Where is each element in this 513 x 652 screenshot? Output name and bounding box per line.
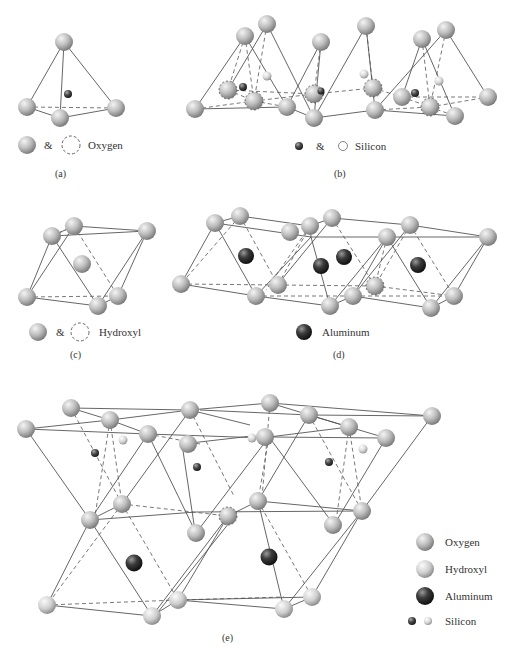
hydroxyl-atom — [172, 275, 190, 293]
oxygen-atom — [479, 88, 497, 106]
hydroxyl-atom — [38, 596, 56, 614]
legend-ampersand: & — [56, 326, 65, 338]
panel-caption-a: (a) — [55, 168, 66, 180]
hydroxyl-atom — [323, 209, 341, 227]
oxygen-atom — [187, 524, 205, 542]
aluminum-position-hydroxyl — [73, 255, 91, 273]
hydroxyl-atom — [401, 216, 419, 234]
aluminum-legend-icon — [416, 587, 434, 605]
hydroxyl-atom — [247, 287, 265, 305]
silicon-atom-light — [263, 72, 272, 81]
hydroxyl-atom — [206, 214, 224, 232]
dashed-oxygen-legend-icon — [62, 136, 80, 154]
hydroxyl-legend-icon — [416, 560, 434, 578]
hydroxyl-atom — [65, 217, 83, 235]
oxygen-atom-hidden — [364, 79, 382, 97]
oxygen-atom — [17, 420, 35, 438]
hydroxyl-atom — [479, 228, 497, 246]
aluminum-atom — [238, 248, 254, 264]
hydroxyl-atom — [344, 287, 362, 305]
legend-label-hydroxyl: Hydroxyl — [445, 563, 487, 575]
oxygen-atom-hidden — [219, 81, 237, 99]
oxygen-atom — [393, 88, 411, 106]
aluminum-atom — [126, 555, 143, 572]
hydroxyl-atom — [109, 287, 127, 305]
hydroxyl-atom — [231, 207, 249, 225]
dashed-hydroxyl-legend-icon — [71, 323, 89, 341]
hydroxyl-atom — [378, 228, 396, 246]
oxygen-atom — [258, 15, 276, 33]
oxygen-atom — [186, 100, 204, 118]
oxygen-atom — [81, 511, 99, 529]
oxygen-atom — [261, 394, 279, 412]
oxygen-atom — [55, 33, 73, 51]
oxygen-atom — [101, 411, 119, 429]
oxygen-atom — [300, 406, 318, 424]
silicon-light-legend-icon — [339, 142, 348, 151]
oxygen-atom — [413, 30, 431, 48]
hydroxyl-atom — [138, 222, 156, 240]
panel-a-silica-tetrahedron: & Oxygen (a) — [18, 33, 125, 180]
legend-label-aluminum: Aluminum — [322, 326, 370, 338]
silicon-atom-light — [248, 434, 257, 443]
hydroxyl-atom — [445, 287, 463, 305]
hydroxyl-atom — [321, 297, 339, 315]
hydroxyl-atom — [18, 288, 36, 306]
clay-mineral-structure-diagram: & Oxygen (a) — [0, 0, 513, 652]
panel-caption-d: (d) — [333, 349, 345, 361]
panel-e-kaolinite-structure: (e) Oxygen Hydroxyl Aluminum Silicon — [17, 394, 493, 644]
hydroxyl-atom — [269, 276, 287, 294]
oxygen-atom — [353, 502, 371, 520]
oxygen-atom — [312, 33, 330, 51]
aluminum-atom — [336, 249, 352, 265]
oxygen-atom-hidden — [421, 98, 439, 116]
legend-e: Oxygen Hydroxyl Aluminum Silicon — [408, 533, 493, 627]
oxygen-atom-hidden — [245, 92, 263, 110]
oxygen-atom — [366, 101, 384, 119]
hydroxyl-atom — [275, 600, 293, 618]
oxygen-atom-hidden — [219, 507, 237, 525]
silicon-atom-light — [435, 77, 444, 86]
oxygen-atom — [305, 109, 323, 127]
oxygen-atom — [18, 98, 36, 116]
hydroxyl-atom — [301, 217, 319, 235]
legend-label-silicon: Silicon — [445, 615, 477, 627]
legend-label-aluminum: Aluminum — [445, 590, 493, 602]
silicon-light-legend-icon — [424, 617, 432, 625]
legend-ampersand: & — [316, 140, 325, 152]
oxygen-atom — [179, 435, 197, 453]
oxygen-atom — [357, 17, 375, 35]
oxygen-atom — [324, 516, 342, 534]
aluminum-atom — [261, 549, 278, 566]
legend-label-oxygen: Oxygen — [445, 536, 480, 548]
silicon-atom — [64, 90, 72, 98]
silicon-atom — [318, 88, 325, 95]
silicon-dark-legend-icon — [408, 617, 416, 625]
oxygen-atom — [236, 27, 254, 45]
oxygen-atom — [278, 98, 296, 116]
hydroxyl-atom — [422, 299, 440, 317]
legend-label-oxygen: Oxygen — [88, 139, 123, 151]
silicon-atom — [193, 463, 201, 471]
oxygen-atom — [249, 492, 267, 510]
hydroxyl-atom-hidden — [366, 277, 384, 295]
oxygen-atom — [423, 407, 441, 425]
panel-caption-e: (e) — [222, 632, 233, 644]
silicon-atom — [411, 89, 419, 97]
hydroxyl-legend-icon — [29, 323, 47, 341]
hydroxyl-atom — [89, 297, 107, 315]
hydroxyl-atom — [281, 223, 299, 241]
silicon-atom-light — [360, 70, 369, 79]
oxygen-atom — [113, 495, 131, 513]
panel-d-gibbsite-sheet: Aluminum (d) — [172, 207, 497, 361]
hydroxyl-atom — [143, 607, 161, 625]
oxygen-atom — [51, 109, 69, 127]
silicon-atom — [239, 83, 247, 91]
oxygen-atom — [340, 418, 358, 436]
aluminum-legend-icon — [296, 324, 312, 340]
oxygen-atom — [139, 425, 157, 443]
oxygen-atom — [62, 399, 80, 417]
panel-caption-c: (c) — [70, 349, 81, 361]
oxygen-atom — [437, 21, 455, 39]
oxygen-atom — [446, 107, 464, 125]
